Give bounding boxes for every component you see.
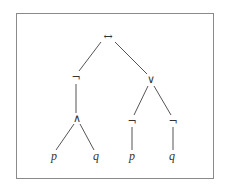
edge-and-q1 [80,124,94,150]
leaf-p-left: p [50,149,57,163]
leaf-q-left: q [93,149,99,163]
leaf-p-right: p [128,149,135,163]
tree-nodes: ↔ ¬ ∨ ∧ ¬ ¬ p q p q [50,30,178,163]
edge-root-or [115,42,147,74]
edge-or-negQ [154,86,171,115]
biconditional-node: ↔ [103,30,112,43]
edge-and-p1 [56,124,74,150]
leaf-q-right: q [169,149,175,163]
edge-root-negL [79,42,101,71]
formula-tree: ↔ ¬ ∨ ∧ ¬ ¬ p q p q [0,0,227,196]
disjunction-node: ∨ [147,73,155,86]
negation-node-q: ¬ [168,115,177,128]
negation-node-left: ¬ [71,71,80,84]
negation-node-p: ¬ [127,115,136,128]
edge-or-negP [134,86,148,115]
conjunction-node: ∧ [73,112,81,125]
tree-edges [56,42,173,150]
